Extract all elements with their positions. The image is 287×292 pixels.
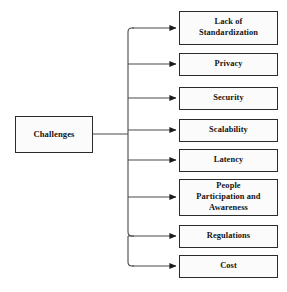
node-security-label: Security [213, 93, 244, 104]
node-lack-of-standardization[interactable]: Lack of Standardization [179, 11, 278, 45]
node-lack-of-standardization-label: Lack of Standardization [199, 17, 258, 39]
node-regulations-label: Regulations [207, 231, 250, 242]
node-challenges[interactable]: Challenges [15, 116, 93, 153]
node-privacy[interactable]: Privacy [179, 53, 278, 76]
node-regulations[interactable]: Regulations [179, 225, 278, 248]
connector-spine [128, 28, 134, 236]
node-latency-label: Latency [214, 155, 244, 166]
node-cost-label: Cost [220, 261, 237, 272]
challenges-diagram: Challenges Lack of Standardization Priva… [0, 0, 287, 292]
node-security[interactable]: Security [179, 87, 278, 110]
node-challenges-label: Challenges [33, 129, 74, 140]
node-scalability[interactable]: Scalability [179, 119, 278, 142]
node-scalability-label: Scalability [209, 125, 248, 136]
node-privacy-label: Privacy [214, 59, 242, 70]
node-cost[interactable]: Cost [179, 255, 278, 278]
connector-spine-bottom-hook [128, 236, 134, 266]
node-latency[interactable]: Latency [179, 149, 278, 172]
node-people-participation-and-awareness[interactable]: People Participation and Awareness [179, 179, 278, 216]
node-people-participation-and-awareness-label: People Participation and Awareness [196, 181, 260, 213]
